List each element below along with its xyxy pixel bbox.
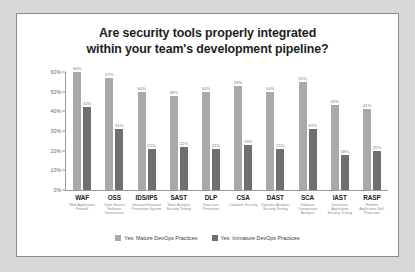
bar[interactable]: 60% xyxy=(73,72,81,190)
bar-value-label: 23% xyxy=(244,139,252,144)
bar-value-label: 53% xyxy=(234,80,242,85)
bar-group: 50%21% xyxy=(195,72,227,190)
bar[interactable]: 22% xyxy=(180,147,188,190)
bar-value-label: 43% xyxy=(331,99,339,104)
bar-value-label: 21% xyxy=(147,143,155,148)
bar[interactable]: 21% xyxy=(148,149,156,190)
bar[interactable]: 31% xyxy=(309,129,317,190)
x-axis-category: SCASoftware Composition Analysis xyxy=(291,194,323,215)
bar-group: 41%20% xyxy=(356,72,388,190)
y-axis-tick-label: 0% xyxy=(54,187,62,193)
legend-color-swatch xyxy=(212,235,218,241)
bar-group: 50%21% xyxy=(130,72,162,190)
bar-value-label: 60% xyxy=(73,66,81,71)
chart-legend: Yes: Mature DevOps PracticesYes: Immatur… xyxy=(17,235,398,241)
legend-label: Yes: Mature DevOps Practices xyxy=(124,235,197,241)
bar[interactable]: 50% xyxy=(266,92,274,190)
bar-value-label: 18% xyxy=(341,149,349,154)
x-axis-category: WAFWeb Application Firewall xyxy=(66,194,98,215)
bar[interactable]: 20% xyxy=(373,151,381,190)
y-axis-tick-label: 50% xyxy=(51,89,61,95)
category-acronym: DAST xyxy=(260,194,290,201)
bar[interactable]: 50% xyxy=(202,92,210,190)
y-axis-tick-label: 20% xyxy=(51,148,61,154)
x-axis-category: OSSOpen Source Software Governance xyxy=(98,194,130,215)
bar-value-label: 31% xyxy=(308,123,316,128)
bar-groups: 60%42%57%31%50%21%48%22%50%21%53%23%50%2… xyxy=(66,72,388,190)
bar-value-label: 42% xyxy=(83,101,91,106)
y-axis-tick-label: 30% xyxy=(51,128,61,134)
category-description: Dynamic Analysis Security Testing xyxy=(260,203,290,212)
category-description: Intrusion Detection Prevention System xyxy=(131,203,161,212)
x-axis-category: SASTStatic Analysis Security Testing xyxy=(163,194,195,215)
bar[interactable]: 31% xyxy=(115,129,123,190)
category-acronym: SCA xyxy=(292,194,322,201)
y-axis-tick-label: 60% xyxy=(51,69,61,75)
category-description: Container Security xyxy=(228,203,258,207)
category-description: Runtime Application Self-Protection xyxy=(357,203,387,216)
x-axis-line xyxy=(65,190,388,191)
legend-item[interactable]: Yes: Immature DevOps Practices xyxy=(212,235,300,241)
bar-value-label: 50% xyxy=(137,86,145,91)
bar[interactable]: 53% xyxy=(234,86,242,190)
category-acronym: OSS xyxy=(99,194,129,201)
bar-value-label: 41% xyxy=(363,103,371,108)
x-axis-category: CSAContainer Security xyxy=(227,194,259,215)
x-axis-category: DLPData Loss Prevention xyxy=(195,194,227,215)
bar-group: 43%18% xyxy=(324,72,356,190)
chart-title-line-1: Are security tools properly integrated xyxy=(17,26,398,42)
y-axis-tick-labels: 0%10%20%30%40%50%60% xyxy=(43,72,65,190)
screenshot-root: Are security tools properly integrated w… xyxy=(0,0,415,272)
x-axis-category-labels: WAFWeb Application FirewallOSSOpen Sourc… xyxy=(66,194,388,215)
bar[interactable]: 41% xyxy=(363,109,371,190)
bar-value-label: 57% xyxy=(105,72,113,77)
bar-value-label: 31% xyxy=(115,123,123,128)
bar[interactable]: 21% xyxy=(276,149,284,190)
x-axis-category: RASPRuntime Application Self-Protection xyxy=(356,194,388,215)
category-acronym: CSA xyxy=(228,194,258,201)
y-axis-tick-label: 40% xyxy=(51,108,61,114)
legend-color-swatch xyxy=(115,235,121,241)
bar[interactable]: 23% xyxy=(244,145,252,190)
bar-group: 50%21% xyxy=(259,72,291,190)
bar-value-label: 22% xyxy=(180,141,188,146)
bar[interactable]: 18% xyxy=(341,155,349,190)
bar-group: 48%22% xyxy=(163,72,195,190)
category-acronym: IAST xyxy=(325,194,355,201)
bar-group: 55%31% xyxy=(291,72,323,190)
bar[interactable]: 43% xyxy=(331,105,339,190)
bar-value-label: 50% xyxy=(202,86,210,91)
legend-item[interactable]: Yes: Mature DevOps Practices xyxy=(115,235,197,241)
x-axis-category: IASTInteractive Application Security Tes… xyxy=(324,194,356,215)
bar[interactable]: 55% xyxy=(299,82,307,190)
category-description: Software Composition Analysis xyxy=(292,203,322,216)
category-acronym: WAF xyxy=(67,194,97,201)
y-axis-tick-label: 10% xyxy=(51,167,61,173)
x-axis-category: IDS/IPSIntrusion Detection Prevention Sy… xyxy=(130,194,162,215)
bar-group: 60%42% xyxy=(66,72,98,190)
chart-title: Are security tools properly integrated w… xyxy=(17,26,398,57)
category-description: Data Loss Prevention xyxy=(196,203,226,212)
category-description: Static Analysis Security Testing xyxy=(164,203,194,212)
chart-title-line-2: within your team's development pipeline? xyxy=(17,42,398,58)
category-description: Web Application Firewall xyxy=(67,203,97,212)
category-acronym: SAST xyxy=(164,194,194,201)
bar-value-label: 50% xyxy=(266,86,274,91)
bar-group: 57%31% xyxy=(98,72,130,190)
bar[interactable]: 57% xyxy=(105,78,113,190)
bar-value-label: 48% xyxy=(170,90,178,95)
bar[interactable]: 48% xyxy=(170,96,178,190)
bar-group: 53%23% xyxy=(227,72,259,190)
bar[interactable]: 50% xyxy=(138,92,146,190)
category-acronym: RASP xyxy=(357,194,387,201)
bar-value-label: 55% xyxy=(298,76,306,81)
bar[interactable]: 21% xyxy=(212,149,220,190)
bar-value-label: 21% xyxy=(276,143,284,148)
bar-value-label: 21% xyxy=(212,143,220,148)
bar[interactable]: 42% xyxy=(83,107,91,190)
category-description: Open Source Software Governance xyxy=(99,203,129,216)
chart-card: Are security tools properly integrated w… xyxy=(16,13,399,257)
legend-label: Yes: Immature DevOps Practices xyxy=(221,235,300,241)
category-acronym: IDS/IPS xyxy=(131,194,161,201)
category-description: Interactive Application Security Testing xyxy=(325,203,355,216)
